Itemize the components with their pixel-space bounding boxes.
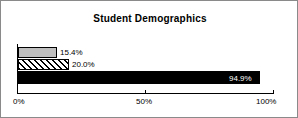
x-axis-tick-50 (145, 90, 146, 94)
x-axis-label-0: 0% (13, 98, 25, 106)
chart-container: Student Demographics 15.4% 20.0% 94.9% 0… (0, 0, 298, 118)
x-axis-tick-0 (17, 90, 18, 94)
x-axis-label-50: 50% (136, 98, 152, 106)
bar-series-2 (18, 59, 69, 70)
plot-area: 15.4% 20.0% 94.9% 0% 50% 100% (18, 44, 273, 94)
chart-title: Student Demographics (1, 13, 298, 24)
x-axis-tick-100 (273, 90, 274, 94)
bar-series-3 (18, 71, 260, 84)
bar-value-label-1: 15.4% (60, 49, 83, 57)
x-axis-label-100: 100% (256, 98, 276, 106)
bar-value-label-2: 20.0% (72, 61, 95, 69)
bar-value-label-3: 94.9% (229, 75, 252, 83)
bar-series-1 (18, 47, 57, 58)
